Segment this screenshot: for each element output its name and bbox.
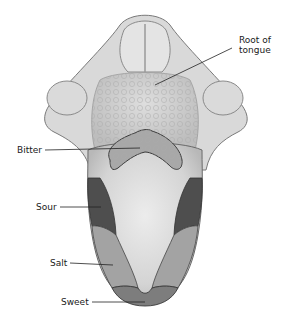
label-root-of-tongue: Root of tongue [239, 35, 271, 55]
label-salt: Salt [50, 258, 67, 268]
right-tonsil [203, 81, 243, 115]
label-root-line2: tongue [239, 45, 271, 55]
label-root-line1: Root of [239, 35, 271, 45]
label-bitter: Bitter [17, 145, 42, 155]
left-tonsil [47, 81, 87, 115]
tongue-diagram: Root of tongue Bitter Sour Salt Sweet [0, 0, 289, 330]
label-sweet: Sweet [61, 297, 89, 307]
label-sour: Sour [36, 202, 57, 212]
